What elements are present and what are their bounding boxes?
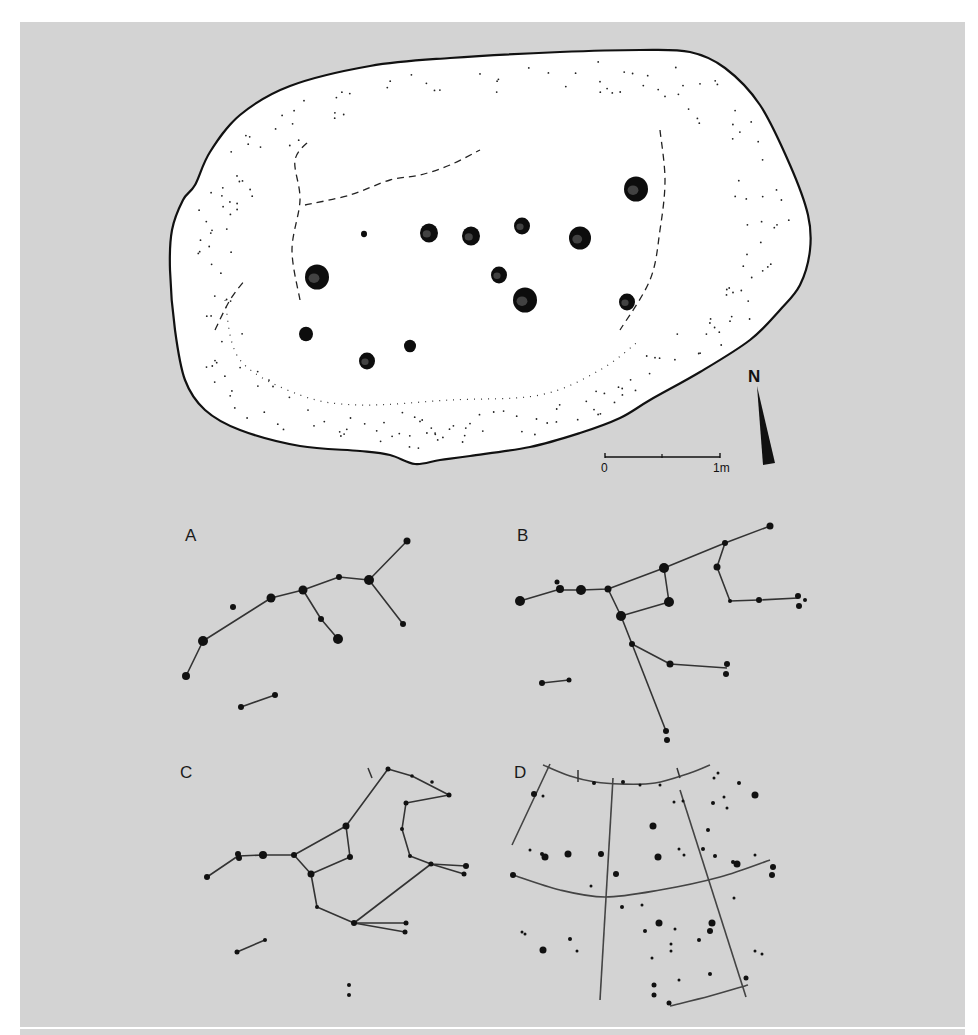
- star-dot: [651, 957, 654, 960]
- star-dot: [404, 921, 409, 926]
- star-dot: [605, 586, 612, 593]
- star-dot: [620, 905, 624, 909]
- star-dot: [659, 563, 669, 573]
- star-dot: [723, 796, 726, 799]
- cup-mark: [624, 176, 648, 201]
- star-dot: [674, 928, 677, 931]
- star-dot: [515, 596, 525, 606]
- star-dot: [576, 950, 579, 953]
- star-dot: [410, 774, 414, 778]
- star-dot: [667, 661, 674, 668]
- panel-c: C: [180, 763, 469, 997]
- star-dot: [701, 847, 705, 851]
- constellation-panels: ABCD: [180, 523, 807, 1007]
- panel-label: D: [514, 763, 526, 782]
- star-dot: [714, 564, 721, 571]
- star-dot: [722, 540, 728, 546]
- star-dot: [713, 854, 717, 858]
- star-dot: [386, 767, 391, 772]
- star-dot: [347, 854, 353, 860]
- star-dot: [708, 972, 712, 976]
- star-dot: [641, 904, 644, 907]
- star-dot: [400, 621, 406, 627]
- cup-mark: [462, 227, 480, 246]
- star-dot: [204, 874, 210, 880]
- star-dot: [795, 593, 801, 599]
- star-dot: [650, 823, 657, 830]
- cup-mark: [514, 218, 530, 235]
- star-dot: [711, 801, 715, 805]
- star-dot: [524, 933, 527, 936]
- star-dot: [724, 661, 730, 667]
- star-dot: [408, 854, 412, 858]
- star-dot: [238, 704, 244, 710]
- star-dot: [347, 983, 351, 987]
- star-dot: [351, 920, 357, 926]
- star-dot: [531, 791, 537, 797]
- star-dot: [659, 784, 662, 787]
- rock-outline: [170, 50, 811, 464]
- star-dot: [767, 523, 774, 530]
- star-dot: [598, 851, 604, 857]
- star-dot: [670, 950, 673, 953]
- star-dot: [267, 594, 276, 603]
- star-dot: [403, 930, 408, 935]
- star-dot: [709, 920, 716, 927]
- star-dot: [733, 897, 736, 900]
- star-dot: [752, 792, 759, 799]
- star-dot: [236, 855, 242, 861]
- star-dot: [565, 851, 572, 858]
- star-dot: [713, 777, 716, 780]
- north-label: N: [748, 367, 760, 386]
- star-dot: [404, 538, 411, 545]
- star-dot: [723, 671, 729, 677]
- panel-d: D: [510, 763, 776, 1006]
- cup-mark: [404, 340, 416, 353]
- star-dot: [664, 597, 674, 607]
- star-dot: [510, 872, 516, 878]
- star-dot: [616, 611, 626, 621]
- scale-bar: 0 1m: [601, 453, 730, 475]
- cup-mark: [359, 353, 375, 370]
- star-dot: [429, 862, 434, 867]
- star-dot: [643, 929, 647, 933]
- star-dot: [299, 586, 308, 595]
- cup-mark: [361, 231, 367, 237]
- star-dot: [744, 976, 749, 981]
- star-dot: [235, 950, 240, 955]
- star-dot: [629, 641, 635, 647]
- star-dot: [670, 943, 673, 946]
- star-dot: [717, 772, 720, 775]
- star-dot: [400, 827, 404, 831]
- star-dot: [652, 993, 657, 998]
- star-dot: [652, 983, 657, 988]
- star-dot: [621, 780, 625, 784]
- star-dot: [655, 854, 662, 861]
- star-dot: [613, 871, 619, 877]
- star-dot: [447, 793, 452, 798]
- star-dot: [462, 872, 467, 877]
- star-dot: [697, 938, 701, 942]
- star-dot: [590, 885, 593, 888]
- star-dot: [182, 672, 190, 680]
- star-dot: [796, 603, 802, 609]
- star-dot: [770, 864, 776, 870]
- star-dot: [521, 931, 524, 934]
- scale-start-label: 0: [601, 461, 608, 475]
- star-dot: [576, 585, 586, 595]
- star-dot: [656, 920, 663, 927]
- scale-end-label: 1m: [713, 461, 730, 475]
- star-dot: [667, 1001, 672, 1006]
- panel-label: B: [517, 526, 528, 545]
- star-dot: [754, 950, 757, 953]
- star-dot: [683, 854, 686, 857]
- star-dot: [568, 937, 572, 941]
- star-dot: [592, 781, 596, 785]
- star-dot: [463, 863, 469, 869]
- star-dot: [542, 795, 545, 798]
- star-dot: [737, 781, 741, 785]
- star-dot: [318, 616, 324, 622]
- star-dot: [673, 801, 676, 804]
- cup-mark: [513, 287, 537, 312]
- star-dot: [263, 938, 267, 942]
